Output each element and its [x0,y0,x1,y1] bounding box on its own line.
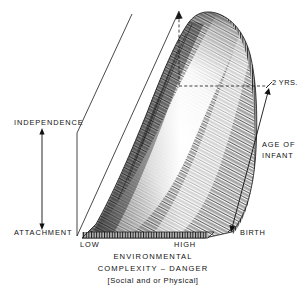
caption-line-1: ENVIRONMENTAL [0,252,306,261]
axis-tick-high: HIGH [174,240,196,249]
axis-tick-birth: BIRTH [240,228,266,237]
axis-label-age-of-infant-line1: AGE OF [262,140,295,149]
axis-label-independence: INDEPENDENCE [14,118,84,127]
axis-label-age-of-infant-line2: INFANT [262,151,294,160]
axis-label-attachment: ATTACHMENT [14,228,72,237]
caption-line-3: [Social and or Physical] [0,276,306,285]
axis-tick-low: LOW [80,240,100,249]
caption-line-2: COMPLEXITY – DANGER [0,264,306,273]
figure-canvas: INDEPENDENCE ATTACHMENT LOW HIGH BIRTH 2… [0,0,306,296]
base-strip [82,232,214,238]
axis-tick-two-years: 2 YRS. [272,78,298,87]
